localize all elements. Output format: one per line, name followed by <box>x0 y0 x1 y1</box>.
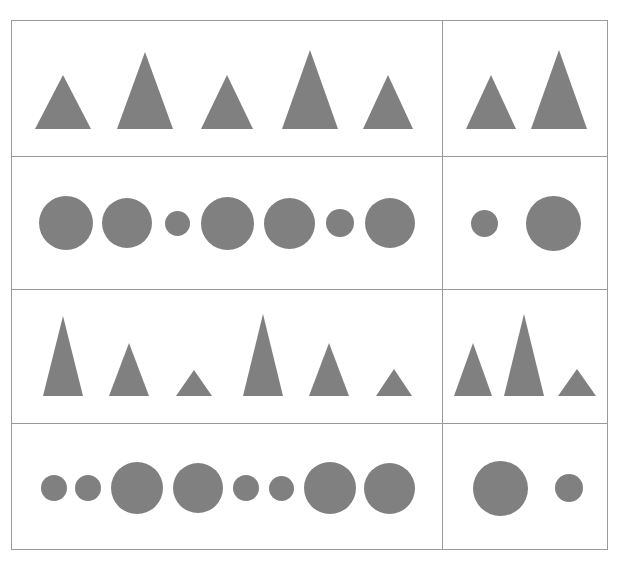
circle-shape <box>555 474 583 502</box>
triangle-shape <box>201 75 253 129</box>
circle-shape <box>233 475 259 501</box>
circle-shape <box>41 475 67 501</box>
triangle-shape <box>43 316 83 396</box>
triangle-shape <box>35 75 91 129</box>
row-1-sample-panel <box>12 21 442 156</box>
triangle-shape <box>243 314 283 396</box>
triangle-shape <box>558 369 596 396</box>
triangle-shape <box>466 75 516 129</box>
circle-shape <box>165 211 190 236</box>
triangle-shape <box>109 343 149 396</box>
figure-canvas <box>0 0 622 563</box>
row-1-target-panel <box>442 21 609 156</box>
triangle-shape <box>176 370 212 396</box>
circle-shape <box>102 198 152 248</box>
triangle-shape <box>363 75 413 129</box>
circle-shape <box>264 198 315 249</box>
circle-shape <box>75 475 101 501</box>
circle-shape <box>201 197 254 250</box>
triangle-shape <box>117 52 173 129</box>
circle-shape <box>111 462 163 514</box>
triangle-shape <box>454 343 492 396</box>
circle-shape <box>39 196 93 250</box>
circle-shape <box>365 198 415 248</box>
triangle-shape <box>309 343 349 396</box>
circle-shape <box>473 461 528 516</box>
row-4-target-panel <box>442 423 609 551</box>
triangle-shape <box>282 50 338 129</box>
shape-grid-frame <box>11 20 608 550</box>
triangle-shape <box>504 314 544 396</box>
circle-shape <box>326 209 354 237</box>
triangle-shape <box>376 369 412 396</box>
row-2-target-panel <box>442 156 609 289</box>
circle-shape <box>471 210 498 237</box>
circle-shape <box>173 463 223 513</box>
circle-shape <box>304 462 356 514</box>
row-2-sample-panel <box>12 156 442 289</box>
row-3-sample-panel <box>12 289 442 423</box>
triangle-shape <box>531 50 587 129</box>
row-3-target-panel <box>442 289 609 423</box>
circle-shape <box>269 476 294 501</box>
circle-shape <box>526 196 581 251</box>
row-4-sample-panel <box>12 423 442 551</box>
circle-shape <box>364 463 415 514</box>
